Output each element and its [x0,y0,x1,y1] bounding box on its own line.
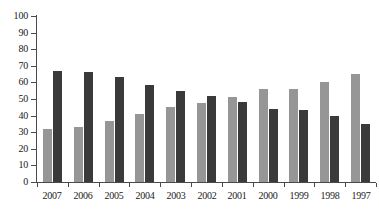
x-tick [99,183,100,187]
bar-series-a-2002 [197,103,206,182]
bar-series-b-1997 [361,124,370,182]
x-tick [284,183,285,187]
bar-series-b-2002 [207,96,216,182]
bar-series-b-2005 [115,77,124,182]
plot-area [37,16,376,182]
bar-series-b-2003 [176,91,185,182]
x-tick [68,183,69,187]
bar-series-a-2006 [74,127,83,182]
y-tick-label: 100 [0,11,28,21]
y-tick [31,165,36,166]
x-tick [37,183,38,187]
x-tick [222,183,223,187]
y-tick [31,33,36,34]
y-tick-label: 10 [0,160,28,170]
y-tick-label: 80 [0,44,28,54]
y-tick [31,116,36,117]
bar-series-b-2004 [145,85,154,182]
y-tick [31,49,36,50]
bar-series-b-1998 [330,116,339,182]
bar-series-a-2004 [135,114,144,182]
x-axis-line [36,182,376,183]
x-tick [160,183,161,187]
bar-series-a-1999 [289,89,298,182]
y-tick-label: 40 [0,111,28,121]
bar-chart: 1009080706050403020100 20072006200520042… [0,0,379,211]
y-tick-label: 60 [0,77,28,87]
y-tick-label: 30 [0,127,28,137]
y-tick-label: 0 [0,177,28,187]
bar-series-a-2000 [259,89,268,182]
x-tick [345,183,346,187]
x-tick [376,183,377,187]
y-tick [31,149,36,150]
y-tick [31,132,36,133]
bar-series-a-2003 [166,107,175,182]
x-tick [253,183,254,187]
bar-series-b-2001 [238,102,247,182]
x-tick [314,183,315,187]
y-tick [31,182,36,183]
x-tick [191,183,192,187]
bar-series-a-1998 [320,82,329,182]
y-tick [31,66,36,67]
bar-series-a-2005 [105,121,114,182]
x-tick [129,183,130,187]
y-tick-label: 50 [0,94,28,104]
y-tick [31,16,36,17]
bar-series-b-2006 [84,72,93,182]
y-tick-label: 20 [0,144,28,154]
y-tick [31,99,36,100]
bar-series-b-1999 [299,110,308,182]
bar-series-a-1997 [351,74,360,182]
bar-series-b-2007 [53,71,62,182]
y-tick [31,82,36,83]
bar-series-b-2000 [269,109,278,182]
bar-series-a-2001 [228,97,237,182]
y-tick-label: 70 [0,61,28,71]
x-tick-label-1997: 1997 [341,190,379,201]
y-tick-label: 90 [0,28,28,38]
bar-series-a-2007 [43,129,52,182]
